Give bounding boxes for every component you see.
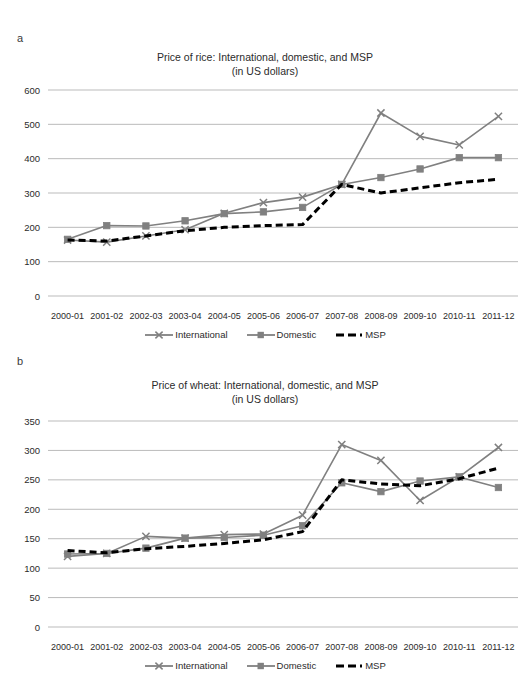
x-axis-tick-label: 2008-09 xyxy=(364,308,397,324)
legend-item: Domestic xyxy=(246,328,317,340)
legend-label: Domestic xyxy=(277,660,317,671)
panel-a-plot-area: 0100200300400500600 xyxy=(0,82,530,304)
series-line-msp xyxy=(68,468,499,553)
legend-key-dashed-line xyxy=(334,330,364,340)
data-point-marker-square xyxy=(456,154,462,160)
x-axis-tick-label: 2008-09 xyxy=(364,639,397,655)
y-axis-tick-label: 100 xyxy=(24,563,40,574)
legend-key-line-cross-marker xyxy=(144,661,174,671)
y-axis-tick-label: 200 xyxy=(24,222,40,233)
legend-key-line-square-marker xyxy=(246,661,276,671)
y-axis-tick-label: 600 xyxy=(24,85,40,96)
x-axis-tick-label: 2010-11 xyxy=(443,639,475,655)
y-axis-tick-label: 100 xyxy=(24,256,40,267)
legend-label: Domestic xyxy=(277,329,317,340)
data-point-marker-square xyxy=(104,222,110,228)
data-point-marker-square xyxy=(495,154,501,160)
x-axis-tick-label: 2004-05 xyxy=(208,639,241,655)
panel-b: b Price of wheat: International, domesti… xyxy=(0,345,530,682)
x-axis-tick-label: 2009-10 xyxy=(404,639,437,655)
x-axis-tick-label: 2003-04 xyxy=(169,639,202,655)
y-axis-tick-label: 300 xyxy=(24,445,40,456)
y-axis-tick-label: 300 xyxy=(24,188,40,199)
x-axis-tick-label: 2003-04 xyxy=(169,308,202,324)
x-axis-tick-label: 2007-08 xyxy=(325,308,358,324)
panel-a-title-line2: (in US dollars) xyxy=(0,64,530,78)
y-axis-tick-label: 0 xyxy=(35,622,40,633)
y-axis-tick-label: 250 xyxy=(24,474,40,485)
x-axis-tick-label: 2004-05 xyxy=(208,308,241,324)
panel-b-legend: InternationalDomesticMSP xyxy=(0,659,530,671)
data-point-marker-square xyxy=(260,209,266,215)
data-point-marker-square xyxy=(299,523,305,529)
data-point-marker-square xyxy=(378,488,384,494)
data-point-marker-cross xyxy=(377,109,384,116)
x-axis-tick-label: 2001-02 xyxy=(90,308,123,324)
x-axis-tick-label: 2005-06 xyxy=(247,308,280,324)
y-axis-tick-label: 150 xyxy=(24,533,40,544)
legend-key-line-cross-marker xyxy=(144,330,174,340)
panel-a-title-line1: Price of rice: International, domestic, … xyxy=(157,51,373,63)
x-axis-tick-label: 2009-10 xyxy=(404,308,437,324)
panel-a-x-axis: 2000-012001-022002-032003-042004-052005-… xyxy=(0,308,530,324)
data-point-marker-square xyxy=(417,166,423,172)
legend-item: MSP xyxy=(334,659,386,671)
x-axis-tick-label: 2006-07 xyxy=(286,639,319,655)
panel-a: a Price of rice: International, domestic… xyxy=(0,0,530,345)
x-axis-tick-label: 2011-12 xyxy=(482,639,514,655)
data-point-marker-square xyxy=(182,218,188,224)
y-axis-tick-label: 400 xyxy=(24,153,40,164)
x-axis-tick-label: 2007-08 xyxy=(325,639,358,655)
y-axis-tick-label: 50 xyxy=(29,592,40,603)
panel-a-legend: InternationalDomesticMSP xyxy=(0,328,530,340)
legend-item: International xyxy=(144,328,227,340)
x-axis-tick-label: 2000-01 xyxy=(51,639,84,655)
panel-b-title-line2: (in US dollars) xyxy=(0,392,530,406)
panel-b-svg: 050100150200250300350 xyxy=(0,413,530,635)
y-axis-tick-label: 0 xyxy=(35,291,40,302)
data-point-marker-cross xyxy=(377,457,384,464)
data-point-marker-square xyxy=(182,535,188,541)
data-point-marker-square xyxy=(143,223,149,229)
legend-label: International xyxy=(175,660,227,671)
data-point-marker-square xyxy=(221,534,227,540)
panel-b-x-axis: 2000-012001-022002-032003-042004-052005-… xyxy=(0,639,530,655)
data-point-marker-square xyxy=(221,210,227,216)
legend-label: International xyxy=(175,329,227,340)
series-line-international xyxy=(68,445,499,557)
data-point-marker-cross xyxy=(495,113,502,120)
legend-key-line-square-marker xyxy=(246,330,276,340)
x-axis-tick-label: 2006-07 xyxy=(286,308,319,324)
y-axis-tick-label: 500 xyxy=(24,119,40,130)
y-axis-tick-label: 350 xyxy=(24,416,40,427)
data-point-marker-square xyxy=(378,174,384,180)
data-point-marker-cross xyxy=(299,512,306,519)
series-line-international xyxy=(68,113,499,242)
legend-label: MSP xyxy=(365,660,386,671)
legend-item: International xyxy=(144,659,227,671)
x-axis-tick-label: 2011-12 xyxy=(482,308,514,324)
legend-item: MSP xyxy=(334,328,386,340)
x-axis-tick-label: 2000-01 xyxy=(51,308,84,324)
legend-item: Domestic xyxy=(246,659,317,671)
x-axis-tick-label: 2002-03 xyxy=(129,308,162,324)
panel-b-title-line1: Price of wheat: International, domestic,… xyxy=(151,379,378,391)
x-axis-tick-label: 2010-11 xyxy=(443,308,475,324)
panel-a-letter: a xyxy=(17,33,23,44)
panel-a-title: Price of rice: International, domestic, … xyxy=(0,50,530,78)
panel-b-plot-area: 050100150200250300350 xyxy=(0,413,530,635)
data-point-marker-square xyxy=(417,478,423,484)
data-point-marker-square xyxy=(495,484,501,490)
x-axis-tick-label: 2002-03 xyxy=(129,639,162,655)
x-axis-tick-label: 2005-06 xyxy=(247,639,280,655)
panel-b-title: Price of wheat: International, domestic,… xyxy=(0,378,530,406)
panel-a-svg: 0100200300400500600 xyxy=(0,82,530,304)
data-point-marker-cross xyxy=(338,441,345,448)
legend-key-dashed-line xyxy=(334,661,364,671)
data-point-marker-square xyxy=(299,204,305,210)
y-axis-tick-label: 200 xyxy=(24,504,40,515)
data-point-marker-cross xyxy=(416,497,423,504)
x-axis-tick-label: 2001-02 xyxy=(90,639,123,655)
data-point-marker-square xyxy=(260,532,266,538)
panel-b-letter: b xyxy=(17,356,23,367)
